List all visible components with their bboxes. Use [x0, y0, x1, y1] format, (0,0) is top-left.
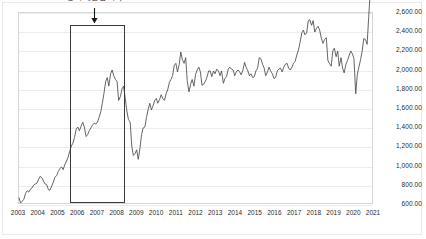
plot-area — [18, 12, 373, 204]
y-axis-tick-label: 2,200.00 — [376, 46, 422, 54]
y-axis-tick-label: 2,600.00 — [376, 8, 422, 16]
y-axis-tick-label: 1,600.00 — [376, 104, 422, 112]
x-axis-labels: 2003200420052006200720082009201020112012… — [18, 208, 373, 222]
x-axis-tick-label: 2021 — [360, 208, 386, 217]
index-line-series — [19, 13, 372, 203]
annotation-arrow-icon — [90, 8, 99, 24]
y-axis-labels: 2,600.002,400.002,200.002,000.001,800.00… — [376, 12, 424, 204]
y-axis-tick-label: 1,200.00 — [376, 142, 422, 150]
chart-screenshot: 증시 레벨업 시기 2,600.002,400.002,200.002,000.… — [0, 0, 426, 239]
level-up-period-label: 증시 레벨업 시기 — [67, 0, 122, 3]
y-axis-tick-label: 2,400.00 — [376, 27, 422, 35]
y-axis-tick-label: 2,000.00 — [376, 66, 422, 74]
y-axis-tick-label: 1,000.00 — [376, 162, 422, 170]
series-path — [19, 0, 370, 203]
gridline — [19, 205, 372, 206]
y-axis-tick-label: 600.00 — [376, 200, 422, 208]
y-axis-tick-label: 800.00 — [376, 181, 422, 189]
y-axis-tick-label: 1,800.00 — [376, 85, 422, 93]
y-axis-tick-label: 1,400.00 — [376, 123, 422, 131]
